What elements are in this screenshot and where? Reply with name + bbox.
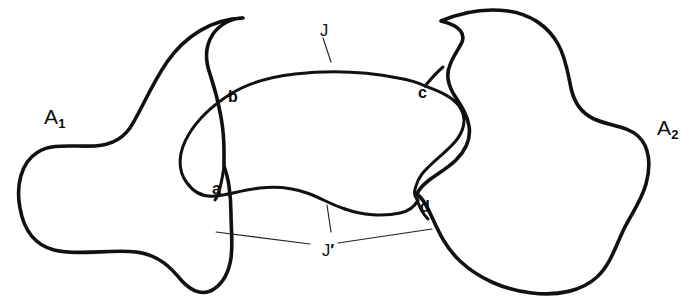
point-label-d: d [420,199,430,215]
region-label-a2-base: A [657,116,671,139]
arc-label-j: J [320,22,328,39]
point-label-c: c [418,85,427,101]
point-label-a: a [212,181,221,197]
arc-j-upper [229,67,443,95]
leader-line-jprime-tick [327,205,331,232]
leader-line-j [323,38,331,62]
arc-label-jprime-mark: ′ [330,241,334,259]
topology-figure: A1 A2 a b c d J J′ [0,0,691,302]
arc-label-jprime: J′ [322,242,334,259]
region-label-a2-subscript: 2 [671,127,678,142]
region-label-a1-subscript: 1 [58,116,65,131]
region-label-a1-base: A [44,105,58,128]
arc-label-jprime-base: J [322,241,330,259]
arc-jprime-lower-right [345,200,418,215]
region-label-a2: A2 [657,117,678,138]
region-label-a1: A1 [44,106,65,127]
arc-jprime-lower-left [215,187,345,209]
blob-outline-a2 [417,10,649,294]
point-label-b: b [228,89,238,105]
blob-outline-a1 [19,18,243,292]
diagram-canvas [0,0,691,302]
leader-line-jprime-right [338,229,432,243]
